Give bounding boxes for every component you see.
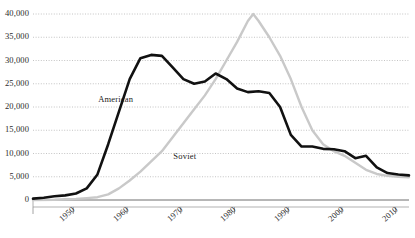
series-annotation-american: American: [98, 94, 133, 104]
y-axis-tick-label: 40,000: [5, 8, 29, 18]
y-axis-tick-label: 35,000: [5, 31, 29, 41]
y-axis-tick-label: 0: [25, 194, 29, 204]
y-axis-tick-label: 15,000: [5, 124, 29, 134]
y-axis-tick-label: 5,000: [9, 171, 29, 181]
y-axis-tick-label: 30,000: [5, 55, 29, 65]
series-annotation-soviet: Soviet: [173, 151, 196, 161]
chart-plot-area: [0, 0, 415, 238]
chart-container: 05,00010,00015,00020,00025,00030,00035,0…: [0, 0, 415, 238]
y-axis-tick-label: 10,000: [5, 148, 29, 158]
y-axis-tick-label: 20,000: [5, 101, 29, 111]
y-axis-tick-label: 25,000: [5, 78, 29, 88]
gridlines-group: [33, 14, 409, 177]
